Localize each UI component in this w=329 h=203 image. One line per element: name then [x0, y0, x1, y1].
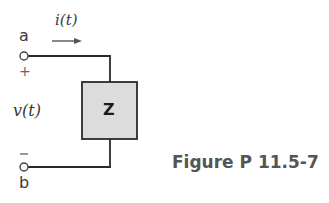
circuit-diagram [0, 0, 329, 203]
terminal-a-label: a [19, 28, 29, 44]
terminal-b-label: b [19, 175, 29, 191]
plus-sign: + [19, 64, 31, 78]
terminal-a-icon [20, 52, 28, 60]
impedance-label: Z [103, 102, 115, 118]
bottom-wire [28, 139, 110, 167]
figure-caption: Figure P 11.5-7 [172, 154, 319, 171]
top-wire [28, 56, 110, 82]
current-label: i(t) [55, 13, 78, 28]
current-arrow-icon [52, 38, 82, 44]
terminal-b-icon [20, 163, 28, 171]
voltage-label: v(t) [13, 103, 41, 119]
